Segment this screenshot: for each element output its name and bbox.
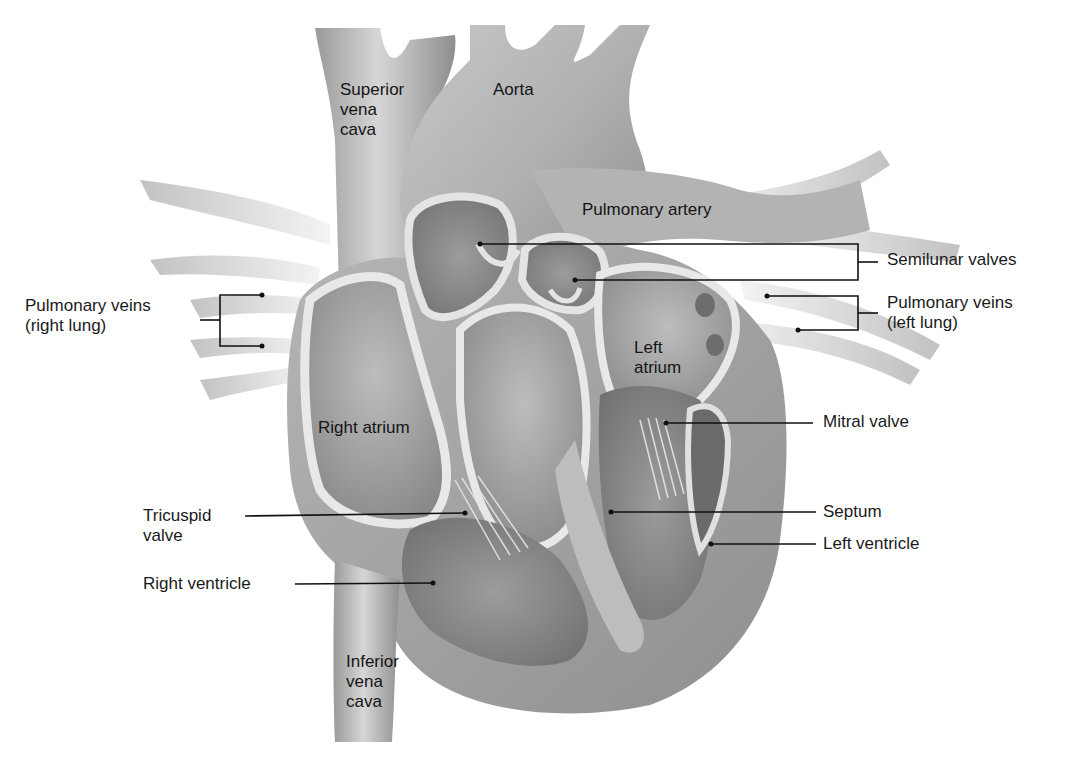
label-septum: Septum — [823, 502, 882, 522]
inferior-vena-cava-shape — [334, 560, 401, 742]
label-tricuspid-valve: Tricuspid valve — [143, 506, 211, 546]
label-aorta: Aorta — [493, 80, 534, 100]
label-semilunar-valves: Semilunar valves — [887, 250, 1016, 270]
label-right-ventricle: Right ventricle — [143, 574, 251, 594]
label-inferior-vena-cava: Inferior vena cava — [346, 652, 399, 712]
label-left-atrium: Left atrium — [634, 338, 681, 378]
heart-illustration — [0, 0, 1081, 768]
label-pulmonary-veins-right: Pulmonary veins (right lung) — [25, 296, 151, 336]
label-pulmonary-artery: Pulmonary artery — [582, 200, 711, 220]
label-superior-vena-cava: Superior vena cava — [340, 80, 404, 140]
label-left-ventricle: Left ventricle — [823, 534, 919, 554]
heart-diagram: Superior vena cava Aorta Pulmonary arter… — [0, 0, 1081, 768]
label-right-atrium: Right atrium — [318, 418, 410, 438]
label-pulmonary-veins-left: Pulmonary veins (left lung) — [887, 293, 1013, 333]
label-mitral-valve: Mitral valve — [823, 412, 909, 432]
